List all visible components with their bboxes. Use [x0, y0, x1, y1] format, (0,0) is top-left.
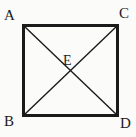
vertex-label-a: A	[4, 8, 15, 23]
geometry-figure: A C B D E	[0, 0, 136, 137]
vertex-label-d: D	[120, 116, 131, 131]
vertex-label-c: C	[119, 6, 129, 21]
vertex-label-b: B	[4, 114, 14, 129]
square-diagram-svg	[0, 0, 136, 137]
vertex-label-e: E	[63, 53, 72, 68]
